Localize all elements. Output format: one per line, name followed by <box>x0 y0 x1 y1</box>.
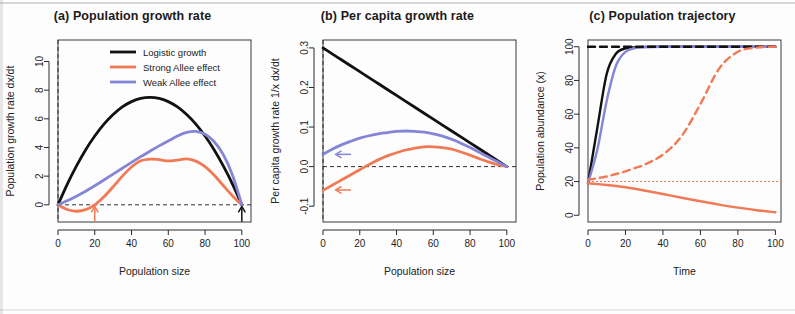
x-tick-label: 40 <box>657 238 669 249</box>
legend-label: Weak Allee effect <box>143 77 216 88</box>
panel-a: (a) Population growth rate 020406080100P… <box>0 0 265 314</box>
y-axis-title: Population growth rate dx/dt <box>4 66 16 197</box>
y-tick-label: 2 <box>34 173 45 179</box>
x-tick-label: 80 <box>732 238 744 249</box>
legend-label: Logistic growth <box>143 47 206 58</box>
y-tick-label: -0.1 <box>299 197 310 215</box>
y-tick-label: 80 <box>564 74 575 86</box>
x-axis-title: Population size <box>119 265 190 277</box>
y-tick-label: 20 <box>564 176 575 188</box>
y-tick-label: 0 <box>34 202 45 208</box>
panel-b: (b) Per capita growth rate 020406080100P… <box>265 0 530 314</box>
x-tick-label: 60 <box>163 238 175 249</box>
y-tick-label: 4 <box>34 144 45 150</box>
panel-a-title: (a) Population growth rate <box>0 9 265 23</box>
x-tick-label: 60 <box>695 238 707 249</box>
x-tick-label: 40 <box>391 238 403 249</box>
x-axis-title: Population size <box>384 265 455 277</box>
y-tick-label: 60 <box>564 108 575 120</box>
x-tick-label: 80 <box>464 238 476 249</box>
figure-canvas: (a) Population growth rate 020406080100P… <box>0 0 795 314</box>
x-tick-label: 40 <box>126 238 138 249</box>
y-tick-label: 0.0 <box>299 159 310 173</box>
panel-c-title: (c) Population trajectory <box>530 9 795 23</box>
curve-weak-allee-effect <box>588 47 775 184</box>
y-tick-label: 6 <box>34 116 45 122</box>
y-tick-label: 0.2 <box>299 80 310 94</box>
y-tick-label: 100 <box>564 38 575 55</box>
x-tick-label: 0 <box>320 238 326 249</box>
x-tick-label: 60 <box>428 238 440 249</box>
y-tick-label: 8 <box>34 87 45 93</box>
panel-b-plot: 020406080100Population size-0.10.00.10.2… <box>265 26 530 314</box>
x-tick-label: 80 <box>199 238 211 249</box>
x-tick-label: 0 <box>585 238 591 249</box>
x-tick-label: 0 <box>55 238 61 249</box>
y-axis-title: Per capita growth rate 1/x dx/dt <box>269 58 281 203</box>
x-tick-label: 20 <box>620 238 632 249</box>
x-tick-label: 100 <box>233 238 250 249</box>
y-tick-label: 0 <box>564 212 575 218</box>
legend-label: Strong Allee effect <box>143 62 220 73</box>
x-tick-label: 100 <box>498 238 515 249</box>
panel-b-title: (b) Per capita growth rate <box>265 9 530 23</box>
panel-c-plot: 020406080100Time020406080100Population a… <box>530 26 795 314</box>
y-tick-label: 40 <box>564 142 575 154</box>
curve-weak-allee-effect <box>58 131 242 204</box>
curve-strong-allee-effect <box>58 159 242 211</box>
x-tick-label: 20 <box>89 238 101 249</box>
y-tick-label: 0.1 <box>299 120 310 134</box>
x-tick-label: 100 <box>767 238 784 249</box>
y-tick-label: 10 <box>34 55 45 67</box>
y-tick-label: 0.3 <box>299 41 310 55</box>
x-axis-title: Time <box>673 265 696 277</box>
panel-a-plot: 020406080100Population size0246810Popula… <box>0 26 265 314</box>
panel-c: (c) Population trajectory 020406080100Ti… <box>530 0 795 314</box>
y-axis-title: Population abundance (x) <box>534 71 546 191</box>
x-tick-label: 20 <box>354 238 366 249</box>
curve-strong-allee-effect-below-threshold <box>588 183 775 212</box>
